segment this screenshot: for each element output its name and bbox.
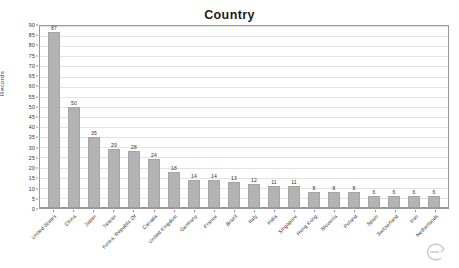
bar[interactable]	[188, 180, 200, 208]
bar-column[interactable]: 11	[264, 26, 284, 208]
x-tick-mark	[415, 210, 416, 212]
bar-column[interactable]: 8	[304, 26, 324, 208]
bar[interactable]	[288, 186, 300, 208]
y-tick-mark	[36, 76, 38, 77]
bar-column[interactable]: 13	[224, 26, 244, 208]
y-tick-label: 55	[29, 94, 35, 100]
y-axis-title: Records	[0, 71, 5, 96]
y-tick-label: 70	[29, 63, 35, 69]
x-tick-mark	[194, 210, 195, 212]
x-tick-slot: United Kingdom	[164, 210, 184, 266]
x-tick-slot: Italy	[244, 210, 264, 266]
bar-column[interactable]: 12	[244, 26, 264, 208]
bar-value-label: 24	[144, 152, 164, 158]
y-tick-label: 15	[29, 175, 35, 181]
x-tick-slot: Singapore	[284, 210, 304, 266]
x-tick-mark	[254, 210, 255, 212]
y-tick-label: 75	[29, 53, 35, 59]
y-tick-label: 50	[29, 104, 35, 110]
bar-column[interactable]: 6	[384, 26, 404, 208]
bar-value-label: 13	[224, 175, 244, 181]
bar-column[interactable]: 8	[324, 26, 344, 208]
x-tick-slot: China	[63, 210, 83, 266]
y-tick-label: 35	[29, 134, 35, 140]
bar[interactable]	[208, 180, 220, 208]
bar-value-label: 6	[404, 189, 424, 195]
y-tick-mark	[36, 65, 38, 66]
bar-column[interactable]: 28	[124, 26, 144, 208]
x-tick-label: United States	[30, 213, 57, 240]
y-tick-mark	[36, 127, 38, 128]
bar[interactable]	[328, 192, 340, 208]
bar[interactable]	[88, 137, 100, 208]
bar-column[interactable]: 29	[104, 26, 124, 208]
bar-column[interactable]: 6	[404, 26, 424, 208]
x-tick-mark	[354, 210, 355, 212]
bar-value-label: 18	[164, 165, 184, 171]
bar-value-label: 28	[124, 144, 144, 150]
bar-value-label: 6	[364, 189, 384, 195]
x-tick-mark	[294, 210, 295, 212]
bar[interactable]	[308, 192, 320, 208]
bar-column[interactable]: 35	[84, 26, 104, 208]
x-tick-slot: France	[204, 210, 224, 266]
bar-column[interactable]: 18	[164, 26, 184, 208]
bar-value-label: 14	[204, 173, 224, 179]
y-tick-mark	[36, 117, 38, 118]
y-tick-mark	[36, 147, 38, 148]
y-tick-label: 25	[29, 155, 35, 161]
x-tick-slot: United States	[43, 210, 63, 266]
bar-value-label: 8	[324, 185, 344, 191]
bar-column[interactable]: 50	[64, 26, 84, 208]
x-tick-slot: Japan	[83, 210, 103, 266]
x-axis-line	[40, 207, 448, 208]
y-tick-mark	[36, 86, 38, 87]
bar-value-label: 8	[344, 185, 364, 191]
bar[interactable]	[68, 107, 80, 208]
y-tick-mark	[36, 157, 38, 158]
y-tick-label: 90	[29, 22, 35, 28]
y-tick-label: 5	[32, 196, 35, 202]
bar[interactable]	[48, 32, 60, 208]
bar-value-label: 6	[384, 189, 404, 195]
x-tick-mark	[435, 210, 436, 212]
y-tick-label: 10	[29, 186, 35, 192]
bar[interactable]	[108, 149, 120, 208]
y-tick-label: 60	[29, 83, 35, 89]
bar-column[interactable]: 6	[364, 26, 384, 208]
bar-value-label: 8	[304, 185, 324, 191]
bar-value-label: 11	[284, 179, 304, 185]
bar-column[interactable]: 14	[204, 26, 224, 208]
y-tick-label: 40	[29, 124, 35, 130]
x-tick-slot: Switzerland	[385, 210, 405, 266]
bar-value-label: 50	[64, 100, 84, 106]
bar-column[interactable]: 14	[184, 26, 204, 208]
x-tick-mark	[274, 210, 275, 212]
bar-column[interactable]: 24	[144, 26, 164, 208]
bar[interactable]	[128, 151, 140, 208]
bar[interactable]	[148, 159, 160, 208]
bar-value-label: 12	[244, 177, 264, 183]
y-tick-label: 20	[29, 165, 35, 171]
bar[interactable]	[348, 192, 360, 208]
bar[interactable]	[168, 172, 180, 208]
bar-column[interactable]: 8	[344, 26, 364, 208]
x-tick-label: Italy	[247, 213, 258, 224]
bar-column[interactable]: 11	[284, 26, 304, 208]
x-tick-slot: Brazil	[224, 210, 244, 266]
bar-column[interactable]: 87	[44, 26, 64, 208]
y-tick-mark	[36, 198, 38, 199]
x-tick-mark	[73, 210, 74, 212]
y-tick-label: 30	[29, 145, 35, 151]
bar[interactable]	[228, 182, 240, 208]
bar-column[interactable]: 6	[424, 26, 444, 208]
y-tick-mark	[36, 35, 38, 36]
x-tick-slot: Spain	[365, 210, 385, 266]
bar-value-label: 35	[84, 130, 104, 136]
x-tick-label: India	[266, 213, 279, 226]
y-tick-label: 80	[29, 42, 35, 48]
x-tick-label: Poland	[343, 213, 359, 229]
y-tick-mark	[36, 137, 38, 138]
bar[interactable]	[248, 184, 260, 208]
bar[interactable]	[268, 186, 280, 208]
